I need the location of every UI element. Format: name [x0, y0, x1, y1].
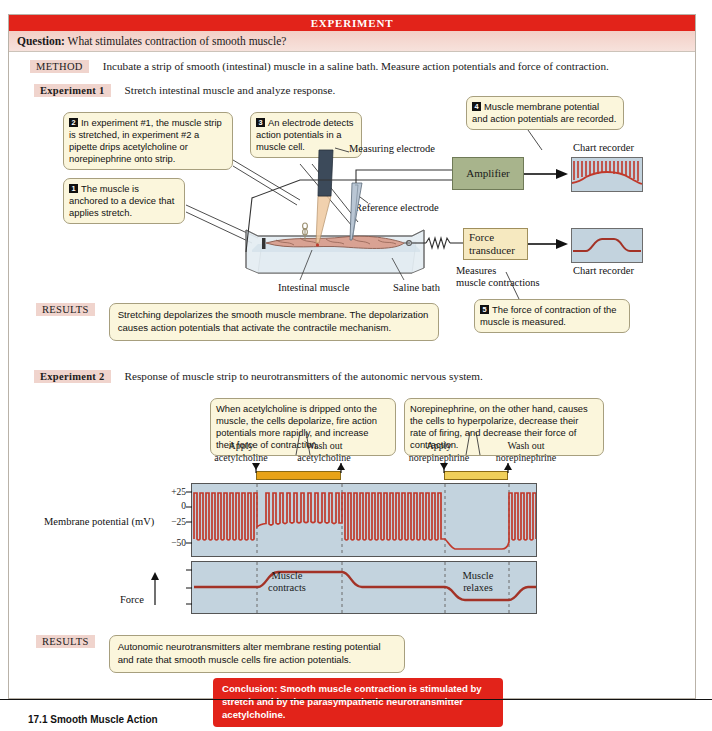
chart-recorder-top-trace: [572, 158, 642, 191]
chart-recorder-bottom-trace: [572, 229, 642, 262]
callout-3-number: 3: [256, 118, 265, 127]
force-axis-label: Force: [120, 594, 144, 605]
event-apply-ach-line1: Apply: [206, 440, 276, 452]
results1-row: RESULTS Stretching depolarizes the smoot…: [36, 303, 439, 341]
method-text: Incubate a strip of smooth (intestinal) …: [103, 60, 609, 72]
note-muscle-relaxes-line2: relaxes: [443, 582, 513, 594]
method-row: METHOD Incubate a strip of smooth (intes…: [30, 60, 609, 73]
callout-4-number: 4: [472, 102, 481, 111]
callout-5: 5The force of contraction of the muscle …: [474, 299, 630, 333]
force-transducer-box: Force transducer: [463, 228, 528, 260]
note-muscle-relaxes-line1: Muscle: [443, 570, 513, 582]
event-apply-ach: Apply acetylcholine: [206, 440, 276, 463]
event-washout-ne-line1: Wash out: [482, 440, 570, 452]
membrane-potential-axis-label: Membrane potential (mV): [44, 516, 154, 527]
conclusion-banner: Conclusion: Smooth muscle contraction is…: [213, 678, 503, 727]
results2-row: RESULTS Autonomic neurotransmitters alte…: [36, 635, 405, 673]
event-apply-ne-line1: Apply: [396, 440, 482, 452]
callout-3: 3An electrode detects action potentials …: [250, 112, 362, 158]
amplifier-box: Amplifier: [452, 157, 524, 190]
callout-2: 2In experiment #1, the muscle strip is s…: [63, 112, 233, 170]
measuring-electrode-label: Measuring electrode: [349, 143, 435, 154]
callout-5-number: 5: [480, 305, 489, 314]
mp-trace-path: [194, 493, 536, 549]
reference-electrode-label: Reference electrode: [355, 202, 439, 213]
event-washout-ach-line2: acetylcholine: [286, 452, 362, 464]
experiment2-label: Experiment 2: [34, 370, 111, 383]
mp-tick-minus50: −50: [160, 538, 186, 548]
figure-caption: 17.1 Smooth Muscle Action: [28, 714, 158, 725]
chart-recorder-bottom: [571, 228, 643, 263]
callout-2-number: 2: [69, 118, 78, 127]
question-label: Question:: [17, 35, 65, 47]
drug-bar-acetylcholine: [256, 471, 341, 480]
experiment1-label: Experiment 1: [34, 84, 111, 97]
experiment1-text: Stretch intestinal muscle and analyze re…: [125, 84, 336, 96]
intestinal-muscle-label: Intestinal muscle: [278, 282, 349, 293]
membrane-potential-panel: [191, 483, 537, 557]
note-muscle-contracts: Muscle contracts: [252, 570, 322, 594]
drug-bar-norepinephrine: [444, 471, 508, 480]
event-washout-ne-line2: norepinephrine: [482, 452, 570, 464]
amplifier-label: Amplifier: [466, 167, 509, 180]
callout-1: 1The muscle is anchored to a device that…: [63, 178, 185, 224]
results2-label: RESULTS: [36, 635, 95, 648]
chart-recorder-bottom-label: Chart recorder: [573, 265, 634, 276]
callout-3-text: An electrode detects action potentials i…: [256, 117, 353, 152]
note-muscle-contracts-line2: contracts: [252, 582, 322, 594]
callout-1-number: 1: [69, 184, 78, 193]
event-apply-ne-line2: norepinephrine: [396, 452, 482, 464]
callout-1-text: The muscle is anchored to a device that …: [69, 183, 174, 218]
results2-text: Autonomic neurotransmitters alter membra…: [109, 635, 405, 673]
experiment-banner-title: EXPERIMENT: [311, 17, 394, 29]
mp-tick-zero: 0: [160, 501, 186, 511]
event-washout-ach: Wash out acetylcholine: [286, 440, 362, 463]
results1-label: RESULTS: [36, 303, 95, 316]
chart-recorder-top-label: Chart recorder: [573, 142, 634, 153]
question-text: Question: What stimulates contraction of…: [9, 35, 286, 47]
force-transducer-label-line2: transducer: [464, 244, 515, 257]
mp-tick-plus25: +25: [160, 487, 186, 497]
event-washout-ach-line1: Wash out: [286, 440, 362, 452]
callout-4-text: Muscle membrane potential and action pot…: [472, 101, 616, 124]
measures-contractions-line1: Measures: [456, 265, 496, 276]
experiment-banner: EXPERIMENT: [9, 15, 695, 31]
bottom-rule: [0, 699, 712, 700]
event-apply-ach-line2: acetylcholine: [206, 452, 276, 464]
question-body: What stimulates contraction of smooth mu…: [68, 35, 287, 47]
callout-2-text: In experiment #1, the muscle strip is st…: [69, 117, 222, 164]
mp-tick-minus25: −25: [160, 517, 186, 527]
results1-text: Stretching depolarizes the smooth muscle…: [109, 303, 439, 341]
question-bar: Question: What stimulates contraction of…: [9, 31, 695, 52]
callout-5-text: The force of contraction of the muscle i…: [480, 304, 617, 327]
callout-4: 4Muscle membrane potential and action po…: [466, 96, 624, 130]
event-apply-ne: Apply norepinephrine: [396, 440, 482, 463]
note-muscle-relaxes: Muscle relaxes: [443, 570, 513, 594]
membrane-potential-trace: [192, 484, 536, 556]
note-muscle-contracts-line1: Muscle: [252, 570, 322, 582]
chart-recorder-top: [571, 157, 643, 192]
experiment2-text: Response of muscle strip to neurotransmi…: [125, 370, 483, 382]
event-washout-ne: Wash out norepinephrine: [482, 440, 570, 463]
method-label: METHOD: [30, 60, 89, 73]
saline-bath-label: Saline bath: [393, 282, 440, 293]
experiment1-row: Experiment 1 Stretch intestinal muscle a…: [34, 84, 335, 97]
force-transducer-label-line1: Force: [464, 231, 494, 244]
experiment2-row: Experiment 2 Response of muscle strip to…: [34, 370, 483, 383]
measures-contractions-line2: muscle contractions: [456, 277, 540, 288]
